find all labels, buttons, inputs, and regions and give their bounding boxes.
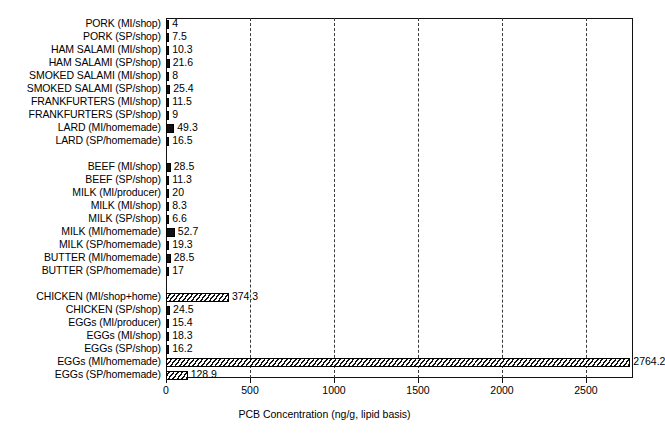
category-label: HAM SALAMI (SP/shop) (49, 56, 161, 69)
x-tick-label-0: 0 (163, 384, 169, 397)
category-label: EGGs (MI/producer) (68, 316, 161, 329)
bar-value-label: 11.3 (172, 173, 192, 186)
bar (166, 98, 169, 107)
category-label: EGGs (MI/homemade) (57, 355, 161, 368)
bar-value-label: 11.5 (172, 95, 192, 108)
bar-value-label: 9 (172, 108, 178, 121)
x-tick-label-1500: 1500 (406, 384, 429, 397)
bar-value-label: 6.6 (172, 212, 187, 225)
bar (166, 254, 171, 263)
bar (166, 319, 169, 328)
bar (166, 124, 174, 133)
category-label: BUTTER (SP/homemade) (42, 264, 161, 277)
bar-rows: PORK (MI/shop)4PORK (SP/shop)7.5HAM SALA… (0, 18, 649, 382)
bar-value-label: 20 (172, 186, 184, 199)
category-label: MILK (MI/producer) (72, 186, 161, 199)
category-label: BUTTER (MI/homemade) (44, 251, 161, 264)
bar-value-label: 49.3 (177, 121, 197, 134)
x-tick-2500 (586, 378, 587, 383)
category-label: EGGs (SP/homemade) (55, 368, 161, 381)
bar-value-label: 2764.2 (633, 355, 665, 368)
category-label: LARD (MI/homemade) (58, 121, 161, 134)
bar-value-label: 25.4 (173, 82, 193, 95)
category-label: EGGs (SP/shop) (84, 342, 161, 355)
bar (166, 358, 630, 367)
bar (166, 215, 169, 224)
category-label: PORK (MI/shop) (85, 17, 161, 30)
category-label: EGGs (MI/shop) (87, 329, 161, 342)
bar-value-label: 19.3 (172, 238, 192, 251)
bar-value-label: 21.6 (173, 56, 193, 69)
category-label: MILK (MI/homemade) (61, 225, 161, 238)
x-tick-0 (166, 378, 167, 383)
x-tick-500 (250, 378, 251, 383)
x-tick-2000 (502, 378, 503, 383)
bar (166, 241, 169, 250)
bar-value-label: 16.2 (172, 342, 192, 355)
bar-value-label: 8 (172, 69, 178, 82)
category-label: FRANKFURTERS (MI/shop) (31, 95, 161, 108)
bar (166, 371, 188, 380)
bar (166, 202, 169, 211)
x-tick-label-2500: 2500 (574, 384, 597, 397)
bar (166, 111, 169, 120)
bar-row: EGGs (SP/homemade)128.9 (0, 369, 649, 382)
bar-row: LARD (SP/homemade)16.5 (0, 135, 649, 148)
category-label: MILK (MI/shop) (91, 199, 161, 212)
bar (166, 20, 169, 29)
bar (166, 332, 169, 341)
category-label: FRANKFURTERS (SP/shop) (29, 108, 161, 121)
bar (166, 72, 169, 81)
category-label: MILK (SP/homemade) (59, 238, 161, 251)
bar-value-label: 374.3 (232, 290, 258, 303)
bar (166, 33, 169, 42)
bar (166, 306, 170, 315)
bar-value-label: 17 (172, 264, 184, 277)
bar (166, 293, 229, 302)
bar (166, 228, 175, 237)
x-tick-label-500: 500 (241, 384, 259, 397)
category-label: SMOKED SALAMI (SP/shop) (27, 82, 161, 95)
category-label: BEEF (SP/shop) (85, 173, 161, 186)
category-label: PORK (SP/shop) (83, 30, 161, 43)
bar-value-label: 7.5 (172, 30, 187, 43)
x-tick-1500 (418, 378, 419, 383)
bar (166, 59, 170, 68)
category-label: BEEF (MI/shop) (88, 160, 161, 173)
bar-value-label: 10.3 (172, 43, 192, 56)
bar (166, 345, 169, 354)
bar-value-label: 28.5 (174, 251, 194, 264)
bar-row: BUTTER (SP/homemade)17 (0, 265, 649, 278)
category-label: LARD (SP/homemade) (55, 134, 161, 147)
category-label: CHICKEN (SP/shop) (66, 303, 161, 316)
x-tick-label-2000: 2000 (490, 384, 513, 397)
category-label: MILK (SP/shop) (88, 212, 161, 225)
bar (166, 163, 171, 172)
bar (166, 85, 170, 94)
x-axis-title: PCB Concentration (ng/g, lipid basis) (0, 408, 649, 420)
category-label: SMOKED SALAMI (MI/shop) (29, 69, 161, 82)
bar-value-label: 28.5 (174, 160, 194, 173)
bar-value-label: 128.9 (191, 368, 217, 381)
x-tick-label-1000: 1000 (322, 384, 345, 397)
bar (166, 267, 169, 276)
bar (166, 176, 169, 185)
bar (166, 189, 169, 198)
bar-value-label: 15.4 (172, 316, 192, 329)
bar-value-label: 4 (172, 17, 178, 30)
bar (166, 137, 169, 146)
bar-value-label: 18.3 (172, 329, 192, 342)
x-tick-1000 (334, 378, 335, 383)
bar (166, 46, 169, 55)
bar-value-label: 52.7 (178, 225, 198, 238)
bar-value-label: 16.5 (172, 134, 192, 147)
bar-value-label: 24.5 (173, 303, 193, 316)
category-label: CHICKEN (MI/shop+home) (36, 290, 161, 303)
category-label: HAM SALAMI (MI/shop) (51, 43, 161, 56)
bar-value-label: 8.3 (172, 199, 187, 212)
